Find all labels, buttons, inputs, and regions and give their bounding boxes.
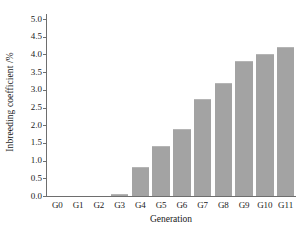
x-axis-tick-label: G7 xyxy=(192,199,213,211)
x-axis-tick-label: G3 xyxy=(109,199,130,211)
y-axis-tick-mark xyxy=(43,196,46,197)
bar-slot xyxy=(172,19,193,196)
x-axis-tick-label: G6 xyxy=(172,199,193,211)
y-axis-tick-label: 4.5 xyxy=(14,32,42,41)
x-axis-tick-label-group: G0G1G2G3G4G5G6G7G8G9G10G11 xyxy=(47,199,296,213)
bar xyxy=(215,83,232,196)
y-axis-tick-label: 0.5 xyxy=(14,174,42,183)
y-axis-tick-label: 1.5 xyxy=(14,138,42,147)
y-axis-tick-label-group: 0.00.51.01.52.02.53.03.54.04.55.0 xyxy=(14,0,42,236)
y-axis-tick-mark xyxy=(43,108,46,109)
bar-slot xyxy=(234,19,255,196)
bar-slot xyxy=(130,19,151,196)
x-axis-title: Generation xyxy=(46,213,296,225)
x-axis-tick-label: G4 xyxy=(130,199,151,211)
bar xyxy=(152,146,169,196)
x-axis-line xyxy=(46,196,296,197)
x-axis-tick-label: G9 xyxy=(234,199,255,211)
bar xyxy=(277,47,294,196)
bar-slot xyxy=(213,19,234,196)
x-axis-tick-label: G2 xyxy=(89,199,110,211)
bar xyxy=(235,61,252,196)
y-axis-tick-label: 5.0 xyxy=(14,15,42,24)
bar xyxy=(256,54,273,196)
y-axis-tick-mark xyxy=(43,161,46,162)
x-axis-tick-label: G11 xyxy=(275,199,296,211)
bar-slot xyxy=(255,19,276,196)
bar-slot xyxy=(68,19,89,196)
y-axis-tick-mark xyxy=(43,72,46,73)
y-axis-tick-label: 2.5 xyxy=(14,103,42,112)
bar-slot xyxy=(192,19,213,196)
bar xyxy=(173,129,190,196)
y-axis-tick-mark xyxy=(43,178,46,179)
bar-chart-figure: Inbreeding coefficient /% 0.00.51.01.52.… xyxy=(0,0,298,236)
x-axis-tick-label: G1 xyxy=(68,199,89,211)
y-axis-tick-label: 0.0 xyxy=(14,192,42,201)
y-axis-tick-mark xyxy=(43,37,46,38)
x-axis-tick-label: G10 xyxy=(255,199,276,211)
y-axis-tick-mark xyxy=(43,54,46,55)
y-axis-tick-label: 2.0 xyxy=(14,121,42,130)
y-axis-tick-label: 4.0 xyxy=(14,50,42,59)
plot-area xyxy=(47,19,296,196)
y-axis-tick-label: 3.5 xyxy=(14,68,42,77)
bar xyxy=(132,167,149,196)
y-axis-tick-mark xyxy=(43,90,46,91)
bar xyxy=(111,194,128,196)
bar-slot xyxy=(109,19,130,196)
bar-slot xyxy=(47,19,68,196)
x-axis-tick-label: G8 xyxy=(213,199,234,211)
bar-slot xyxy=(89,19,110,196)
y-axis-tick-mark xyxy=(43,19,46,20)
y-axis-tick-label: 1.0 xyxy=(14,156,42,165)
bar xyxy=(194,99,211,196)
bar-slot xyxy=(275,19,296,196)
bar-slot xyxy=(151,19,172,196)
y-axis-tick-mark xyxy=(43,143,46,144)
x-axis-tick-label: G0 xyxy=(47,199,68,211)
y-axis-tick-label: 3.0 xyxy=(14,85,42,94)
x-axis-tick-label: G5 xyxy=(151,199,172,211)
y-axis-tick-mark xyxy=(43,125,46,126)
